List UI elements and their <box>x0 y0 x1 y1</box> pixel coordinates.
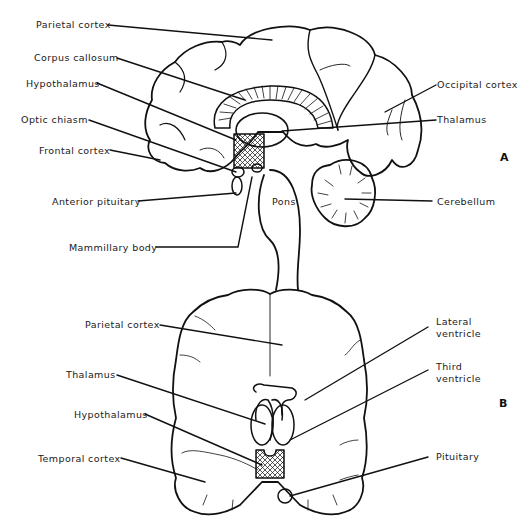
label-b-third-ventricle-1: Third <box>436 361 462 372</box>
label-a-hypothalamus: Hypothalamus <box>26 78 100 89</box>
label-a-pons: Pons <box>272 196 296 207</box>
sagittal-brain <box>145 26 421 290</box>
label-a-occipital-cortex: Occipital cortex <box>437 79 518 90</box>
panel-letter-a: A <box>500 151 509 164</box>
brainstem <box>259 170 300 290</box>
label-a-parietal-cortex: Parietal cortex <box>36 19 111 30</box>
label-b-thalamus: Thalamus <box>66 369 116 380</box>
label-b-lateral-ventricle-1: Lateral <box>436 316 472 327</box>
label-a-corpus-callosum: Corpus callosum <box>34 52 119 63</box>
label-b-third-ventricle-2: ventricle <box>436 373 481 384</box>
label-b-parietal-cortex: Parietal cortex <box>85 319 160 330</box>
hypothalamus-a <box>234 134 264 168</box>
label-b-lateral-ventricle-2: ventricle <box>436 328 481 339</box>
panel-letter-b: B <box>499 397 507 410</box>
label-b-hypothalamus: Hypothalamus <box>74 409 148 420</box>
label-a-anterior-pituitary: Anterior pituitary <box>52 196 141 207</box>
label-b-pituitary: Pituitary <box>436 451 479 462</box>
label-a-mammillary-body: Mammillary body <box>69 242 157 253</box>
label-a-cerebellum: Cerebellum <box>437 196 495 207</box>
label-a-frontal-cortex: Frontal cortex <box>39 145 110 156</box>
label-a-optic-chiasm: Optic chiasm <box>21 114 88 125</box>
label-a-thalamus: Thalamus <box>437 114 487 125</box>
label-b-temporal-cortex: Temporal cortex <box>38 453 120 464</box>
